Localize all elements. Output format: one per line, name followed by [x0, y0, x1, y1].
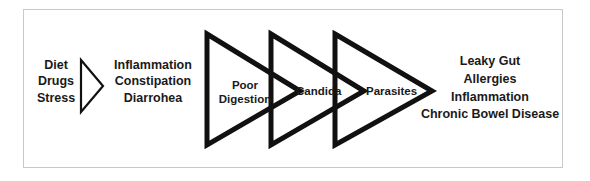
- diagram-canvas: Diet Drugs Stress Inflammation Constipat…: [0, 0, 590, 181]
- stage-poor-digestion-line-2: Digestion: [214, 92, 276, 106]
- symptoms-block: Inflammation Constipation Diarrohea: [103, 57, 203, 106]
- stage-poor-digestion-line-1: Poor: [214, 78, 276, 92]
- symptom-line-inflammation: Inflammation: [103, 57, 203, 73]
- stage-label-poor-digestion: Poor Digestion: [214, 78, 276, 107]
- symptom-line-diarrohea: Diarrohea: [103, 90, 203, 106]
- cause-line-stress: Stress: [28, 90, 84, 106]
- outcome-line-chronic-bowel-disease: Chronic Bowel Disease: [414, 106, 566, 124]
- cause-line-drugs: Drugs: [28, 73, 84, 89]
- stage-label-candida: Candida: [296, 84, 354, 98]
- symptom-line-constipation: Constipation: [103, 73, 203, 89]
- causes-block: Diet Drugs Stress: [28, 57, 84, 106]
- outcome-line-leaky-gut: Leaky Gut: [414, 53, 566, 71]
- cause-line-diet: Diet: [28, 57, 84, 73]
- stage-candida-line-1: Candida: [296, 84, 354, 98]
- outcome-line-inflammation: Inflammation: [414, 89, 566, 107]
- outcomes-block: Leaky Gut Allergies Inflammation Chronic…: [414, 53, 566, 124]
- outcome-line-allergies: Allergies: [414, 71, 566, 89]
